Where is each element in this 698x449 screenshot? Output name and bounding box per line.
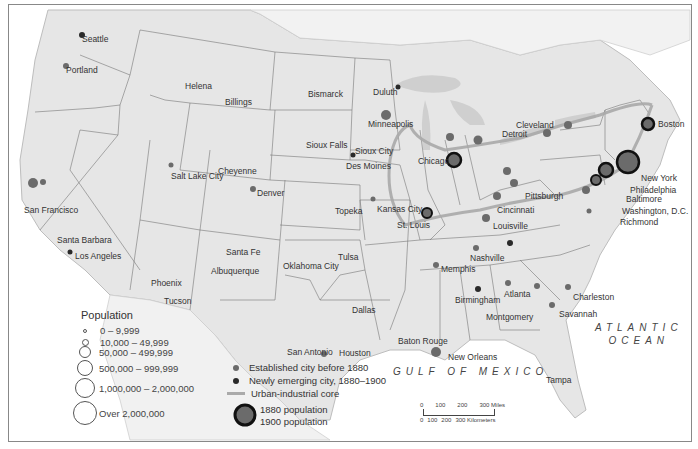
city-label: Dallas <box>352 306 376 315</box>
city-label: Phoenix <box>151 279 182 288</box>
city-label: Chicago <box>418 157 449 166</box>
population-class-3: 50,000 – 499,999 <box>72 346 173 358</box>
city-label: Atlanta <box>504 290 530 299</box>
city-label: Savannah <box>559 310 597 319</box>
scale-line <box>423 409 495 416</box>
city-label: Boston <box>658 120 684 129</box>
city-label: Pittsburgh <box>525 192 563 201</box>
city-label: Bismarck <box>308 90 343 99</box>
line-icon <box>227 392 245 395</box>
city-label: Kansas City <box>377 205 422 214</box>
city-label: Birmingham <box>455 296 500 305</box>
city-label: Denver <box>257 189 284 198</box>
dot-icon <box>233 365 239 371</box>
city-label: Albuquerque <box>211 267 259 276</box>
circle-icon <box>82 339 89 346</box>
city-label: Minneapolis <box>368 120 413 129</box>
city-label: Tampa <box>546 376 572 385</box>
city-label: Salt Lake City <box>171 172 223 181</box>
city-label: Washington, D.C. <box>622 207 688 216</box>
city-label: Sioux Falls <box>306 141 348 150</box>
legend-1880: 1880 population <box>260 404 328 415</box>
city-label: Santa Barbara <box>57 236 112 245</box>
city-label: Santa Fe <box>226 248 261 257</box>
city-label: Sioux City <box>355 147 393 156</box>
city-label: Baltimore <box>626 195 662 204</box>
legend-established: Established city before 1880 <box>233 362 368 373</box>
legend-emerging: Newly emerging city, 1880–1900 <box>233 375 386 386</box>
city-label: Cincinnati <box>497 206 534 215</box>
circle-icon <box>79 346 91 358</box>
city-label: Oklahoma City <box>283 262 339 271</box>
city-label: Houston <box>339 349 371 358</box>
city-label: Memphis <box>441 265 475 274</box>
city-label: St. Louis <box>397 221 430 230</box>
scale-bar: 0 100 200 300 Miles 0 100 200 300 Kilome… <box>420 402 505 423</box>
city-label: Detroit <box>502 130 527 139</box>
scale-miles: 0 100 200 300 Miles <box>420 402 505 408</box>
legend-1900: 1900 population <box>260 416 328 427</box>
city-label: Baton Rouge <box>398 337 448 346</box>
population-legend-title: Population <box>81 309 133 321</box>
circle-icon <box>83 329 87 333</box>
city-label: Tucson <box>164 297 192 306</box>
dot-icon <box>233 378 239 384</box>
atlantic-ocean-label: ATLANTIC OCEAN <box>595 322 683 347</box>
city-label: Billings <box>225 98 252 107</box>
circle-icon <box>73 401 97 425</box>
atlantic-label-line2: OCEAN <box>595 335 683 348</box>
city-label: Helena <box>185 82 212 91</box>
population-class-6: Over 2,000,000 <box>72 401 165 425</box>
city-label: San Antonio <box>287 348 333 357</box>
city-label: Des Moines <box>346 162 391 171</box>
city-label: New Orleans <box>448 353 497 362</box>
scale-km: 0 100 200 300 Kilometers <box>420 417 505 423</box>
atlantic-label-line1: ATLANTIC <box>595 322 683 335</box>
city-label: Richmond <box>620 218 658 227</box>
city-label: Tulsa <box>338 253 358 262</box>
circle-icon <box>75 378 95 398</box>
city-label: Duluth <box>373 88 398 97</box>
city-label: Los Angeles <box>75 252 121 261</box>
legend-symbol-1880-1900 <box>235 405 255 425</box>
gulf-of-mexico-label: GULF OF MEXICO <box>393 366 548 379</box>
city-label: San Francisco <box>24 206 78 215</box>
city-label: Charleston <box>573 293 614 302</box>
city-label: Nashville <box>470 254 505 263</box>
city-label: Seattle <box>82 35 108 44</box>
city-label: Cheyenne <box>218 167 257 176</box>
city-label: Cleveland <box>516 121 554 130</box>
city-label: Montgomery <box>486 313 533 322</box>
city-label: Louisville <box>493 222 528 231</box>
circle-icon <box>77 360 93 376</box>
population-class-4: 500,000 – 999,999 <box>72 360 178 376</box>
city-label: Topeka <box>335 207 362 216</box>
population-class-1: 0 – 9,999 <box>72 325 140 336</box>
population-class-5: 1,000,000 – 2,000,000 <box>72 378 194 398</box>
city-label: New York <box>641 174 677 183</box>
legend-core: Urban-industrial core <box>227 388 339 399</box>
city-label: Portland <box>66 66 98 75</box>
